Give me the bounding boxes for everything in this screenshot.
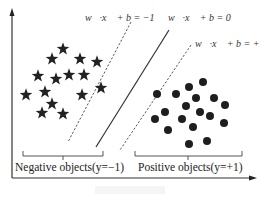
circle-icon — [185, 140, 193, 148]
circle-icon — [189, 123, 197, 131]
negative-class-label: Negative objects(y=−1) — [15, 161, 124, 173]
star-icon — [39, 85, 52, 97]
y-axis-arrow-icon — [10, 8, 15, 16]
circle-icon — [199, 78, 207, 86]
circle-icon — [192, 94, 200, 102]
hyperplane-line — [96, 30, 169, 147]
circle-icon — [164, 126, 172, 134]
star-icon — [63, 68, 76, 80]
star-icon — [32, 69, 45, 81]
circle-icon — [210, 94, 218, 102]
circle-icon — [196, 108, 204, 116]
star-icon — [78, 68, 91, 80]
star-icon — [57, 42, 70, 54]
negative-bracket — [23, 151, 103, 160]
circle-icon — [185, 83, 193, 91]
circle-icon — [206, 112, 214, 120]
star-icon — [50, 72, 63, 84]
circle-icon — [161, 108, 169, 116]
negative-points — [20, 42, 108, 119]
star-icon — [46, 97, 59, 109]
star-icon — [36, 106, 49, 118]
positive-points — [151, 78, 229, 148]
circle-icon — [220, 119, 228, 127]
star-icon — [20, 88, 33, 100]
margin-negative-label: w⃗·x⃗ + b = −1 — [85, 12, 154, 23]
star-icon — [76, 88, 89, 100]
star-icon — [91, 55, 104, 67]
circle-icon — [153, 90, 161, 98]
hyperplane-label: w⃗·x⃗ + b = 0 — [168, 12, 231, 23]
positive-bracket — [135, 151, 242, 160]
circle-icon — [182, 102, 190, 110]
circle-icon — [178, 115, 186, 123]
circle-icon — [151, 115, 159, 123]
positive-class-label: Positive objects(y=+1) — [138, 161, 243, 173]
margin-line-negative — [68, 22, 131, 142]
x-axis-arrow-icon — [249, 176, 257, 181]
margin-positive-label: w⃗·x⃗ + b = +1 — [195, 38, 260, 49]
star-icon — [57, 107, 70, 119]
circle-icon — [203, 137, 211, 145]
star-icon — [95, 81, 108, 93]
circle-icon — [172, 90, 180, 98]
star-icon — [74, 52, 87, 64]
caption-placeholder — [95, 186, 165, 194]
circle-icon — [221, 101, 229, 109]
star-icon — [46, 52, 59, 64]
